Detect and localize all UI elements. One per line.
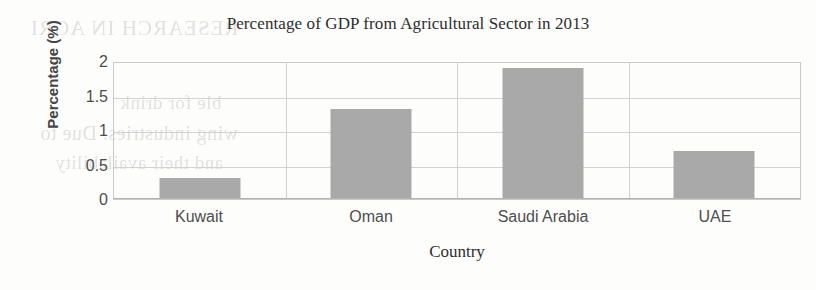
y-axis-tick-label: 1 xyxy=(58,123,108,139)
y-axis-tick-label: 1.5 xyxy=(58,89,108,105)
bar-oman[interactable] xyxy=(331,109,412,199)
plot-area xyxy=(113,62,801,200)
y-axis-tick-labels: 00.511.52 xyxy=(58,52,108,212)
bar-uae[interactable] xyxy=(674,151,755,199)
x-axis-title: Country xyxy=(113,242,801,262)
bar-saudi-arabia[interactable] xyxy=(502,68,583,199)
bar-kuwait[interactable] xyxy=(159,178,240,199)
chart-title: Percentage of GDP from Agricultural Sect… xyxy=(0,14,816,34)
y-axis-tick-label: 0 xyxy=(58,192,108,208)
bar-cell xyxy=(457,63,629,199)
x-axis-tick-label: Kuwait xyxy=(113,208,285,226)
bar-cell xyxy=(114,63,286,199)
x-axis-tick-label: Oman xyxy=(285,208,457,226)
bar-cell xyxy=(629,63,801,199)
x-axis-baseline xyxy=(114,198,800,199)
chart-figure: RESEARCH IN AGRI ble for drink wing indu… xyxy=(0,0,816,290)
y-axis-tick-label: 2 xyxy=(58,54,108,70)
x-axis-tick-labels: KuwaitOmanSaudi ArabiaUAE xyxy=(113,208,801,234)
y-axis-tick-label: 0.5 xyxy=(58,158,108,174)
bar-cell xyxy=(286,63,458,199)
bar-series xyxy=(114,63,800,199)
x-axis-tick-label: UAE xyxy=(629,208,801,226)
x-axis-tick-label: Saudi Arabia xyxy=(457,208,629,226)
